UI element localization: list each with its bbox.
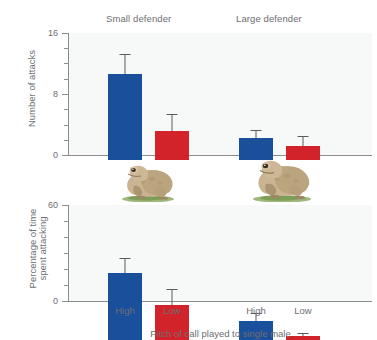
small-defender-frog-icon bbox=[112, 160, 184, 202]
errorcap-large-high-attacks bbox=[251, 130, 262, 131]
y-tick-minor-40 bbox=[64, 237, 68, 238]
y-tick-minor-10 bbox=[64, 79, 68, 80]
y-tick-minor-2 bbox=[64, 140, 68, 141]
y-tick-major-60 bbox=[62, 205, 68, 206]
y-tick-major-0 bbox=[62, 155, 68, 156]
y-tick-major-8 bbox=[62, 94, 68, 95]
errorbar-large-low-attacks bbox=[303, 137, 304, 146]
large-defender-frog-icon bbox=[242, 155, 322, 202]
y-axis-line-attacks bbox=[68, 33, 69, 156]
errorbar-small-high-attacks bbox=[125, 55, 126, 74]
chart-panel-attacks: 16 8 0 Number of attacks bbox=[0, 28, 377, 160]
x-tick-label-large-high: High bbox=[236, 305, 276, 316]
y-tick-major-16 bbox=[62, 33, 68, 34]
errorbar-small-low-attacks bbox=[172, 115, 173, 131]
y-axis-title-attacks: Number of attacks bbox=[26, 34, 37, 144]
y-axis-line-time-attacking bbox=[68, 205, 69, 302]
errorcap-large-low-attacks bbox=[298, 136, 309, 137]
y-tick-minor-20 bbox=[64, 269, 68, 270]
errorbar-small-high-time bbox=[125, 259, 126, 273]
bar-small-high-attacks bbox=[108, 74, 142, 160]
y-tick-minor-4 bbox=[64, 125, 68, 126]
errorcap-small-low-time bbox=[167, 289, 178, 290]
chart-panel-time-attacking: 60 0 Percentage of time spent attacking bbox=[0, 200, 377, 340]
y-tick-minor-10 bbox=[64, 285, 68, 286]
figure-root: Small defender Large defender 16 8 0 Num… bbox=[0, 0, 377, 340]
x-tick-label-large-low: Low bbox=[283, 305, 323, 316]
y-tick-minor-14 bbox=[64, 48, 68, 49]
bar-group-small-high-attacks bbox=[108, 74, 142, 160]
y-tick-major-0-pct bbox=[62, 301, 68, 302]
errorcap-small-high-attacks bbox=[120, 54, 131, 55]
y-tick-minor-50 bbox=[64, 221, 68, 222]
y-axis-title-time-attacking-line2: spent attacking bbox=[37, 194, 48, 304]
y-tick-minor-30 bbox=[64, 253, 68, 254]
y-tick-label-0: 0 bbox=[32, 150, 58, 160]
y-tick-minor-12 bbox=[64, 63, 68, 64]
errorcap-small-high-time bbox=[120, 258, 131, 259]
errorbar-large-high-attacks bbox=[256, 131, 257, 138]
bar-group-small-low-attacks bbox=[155, 131, 189, 160]
y-tick-minor-6 bbox=[64, 109, 68, 110]
errorbar-small-low-time bbox=[172, 290, 173, 305]
group-header-small-defender: Small defender bbox=[106, 13, 171, 24]
group-header-large-defender: Large defender bbox=[236, 13, 302, 24]
x-tick-label-small-high: High bbox=[105, 305, 145, 316]
bar-small-low-attacks bbox=[155, 131, 189, 160]
x-axis-title: Pitch of call played to single male bbox=[69, 328, 372, 339]
errorcap-small-low-attacks bbox=[167, 114, 178, 115]
x-tick-label-small-low: Low bbox=[152, 305, 192, 316]
